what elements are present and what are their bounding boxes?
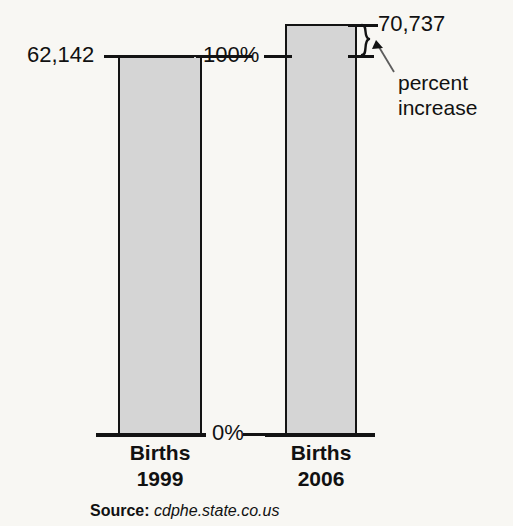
category-label-births-2006: Births 2006 (256, 440, 386, 491)
source-label: Source: (90, 502, 150, 519)
curly-brace-icon (362, 25, 369, 55)
category-name-1999: Births (95, 440, 225, 466)
annotation-line-2: increase (398, 96, 477, 121)
annotation-percent-increase: percent increase (398, 71, 477, 121)
value-label-births-2006: 70,737 (378, 13, 445, 35)
category-year-2006: 2006 (256, 466, 386, 492)
bar-chart: 62,142 100% 0% 70,737 percent increase B… (0, 0, 513, 526)
category-name-2006: Births (256, 440, 386, 466)
category-label-births-1999: Births 1999 (95, 440, 225, 491)
annotation-line-1: percent (398, 71, 477, 96)
category-year-1999: 1999 (95, 466, 225, 492)
source-value: cdphe.state.co.us (154, 502, 279, 519)
axis-tick-label-100-percent: 100% (203, 44, 259, 66)
source-line: Source: cdphe.state.co.us (90, 502, 279, 520)
value-label-births-1999: 62,142 (27, 44, 94, 66)
callout-arrow-head-icon (372, 40, 383, 49)
